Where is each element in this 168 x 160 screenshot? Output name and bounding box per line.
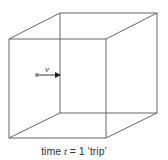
cube-diagram: v	[0, 0, 168, 160]
particle-dot	[35, 73, 39, 77]
edge-top-left-depth	[9, 13, 60, 39]
caption-suffix: = 1 ‘trip’	[67, 145, 107, 157]
edge-bottom-right-depth	[106, 113, 157, 138]
edge-top-right-depth	[106, 13, 157, 39]
caption: time t = 1 ‘trip’	[0, 145, 148, 157]
velocity-label: v	[45, 64, 49, 74]
edge-bottom-left-depth	[9, 113, 60, 138]
caption-prefix: time	[41, 145, 64, 157]
